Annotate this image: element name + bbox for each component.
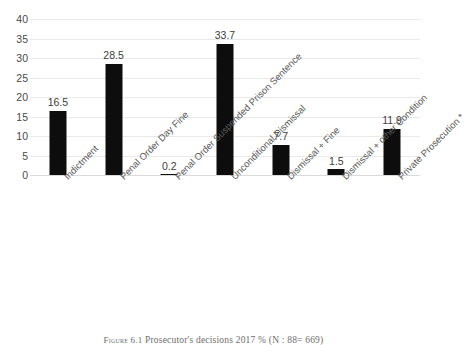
- caption-prefix: Figure 6.1: [104, 335, 143, 345]
- y-tick-35: 35: [4, 33, 28, 44]
- figure-caption: Figure 6.1 Prosecutor's decisions 2017 %…: [0, 335, 427, 345]
- y-tick-40: 40: [4, 14, 28, 25]
- y-tick-15: 15: [4, 111, 28, 122]
- y-tick-25: 25: [4, 72, 28, 83]
- bar-value-label: 1.5: [329, 156, 344, 167]
- bar-value-label: 16.5: [48, 97, 68, 108]
- bar-slot: 16.5: [30, 19, 86, 175]
- bar[interactable]: [105, 64, 122, 175]
- bar-value-label: 0.2: [162, 161, 177, 172]
- y-tick-5: 5: [4, 150, 28, 161]
- x-axis-labels: IndictmentPenal Order Day FinePenal Orde…: [30, 176, 420, 286]
- y-tick-20: 20: [4, 92, 28, 103]
- y-tick-10: 10: [4, 131, 28, 142]
- bar-value-label: 28.5: [103, 50, 123, 61]
- bar[interactable]: [216, 44, 233, 175]
- bar[interactable]: [49, 111, 66, 175]
- y-tick-30: 30: [4, 53, 28, 64]
- y-tick-0: 0: [4, 170, 28, 181]
- y-axis: 40 35 30 25 20 15 10 5 0: [0, 19, 28, 175]
- bar-value-label: 33.7: [215, 30, 235, 41]
- caption-text: Prosecutor's decisions 2017 % (N : 88= 6…: [145, 335, 323, 345]
